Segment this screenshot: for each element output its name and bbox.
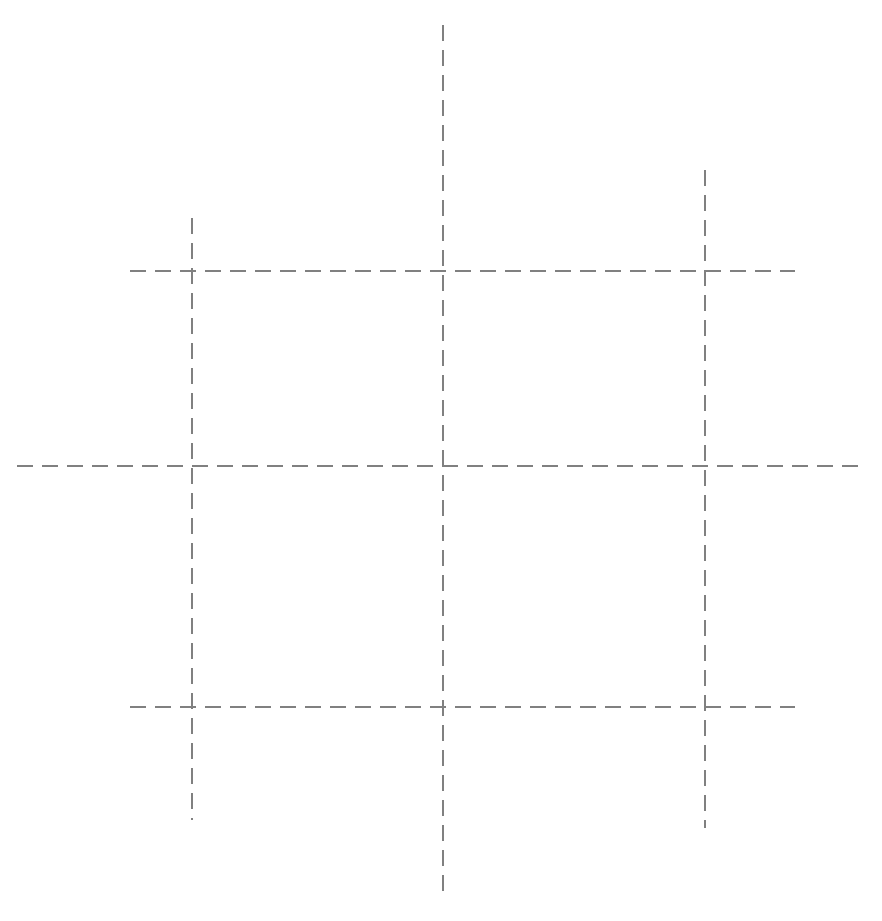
- figure-canvas: [0, 0, 882, 921]
- dashed-grid-figure: [0, 0, 882, 921]
- canvas-background: [0, 0, 882, 921]
